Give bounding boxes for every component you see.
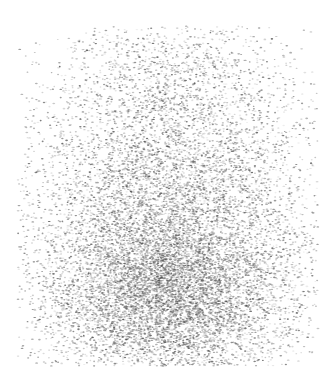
scatter-plot-figure <box>0 0 330 375</box>
scatter-plot-canvas <box>0 0 330 375</box>
